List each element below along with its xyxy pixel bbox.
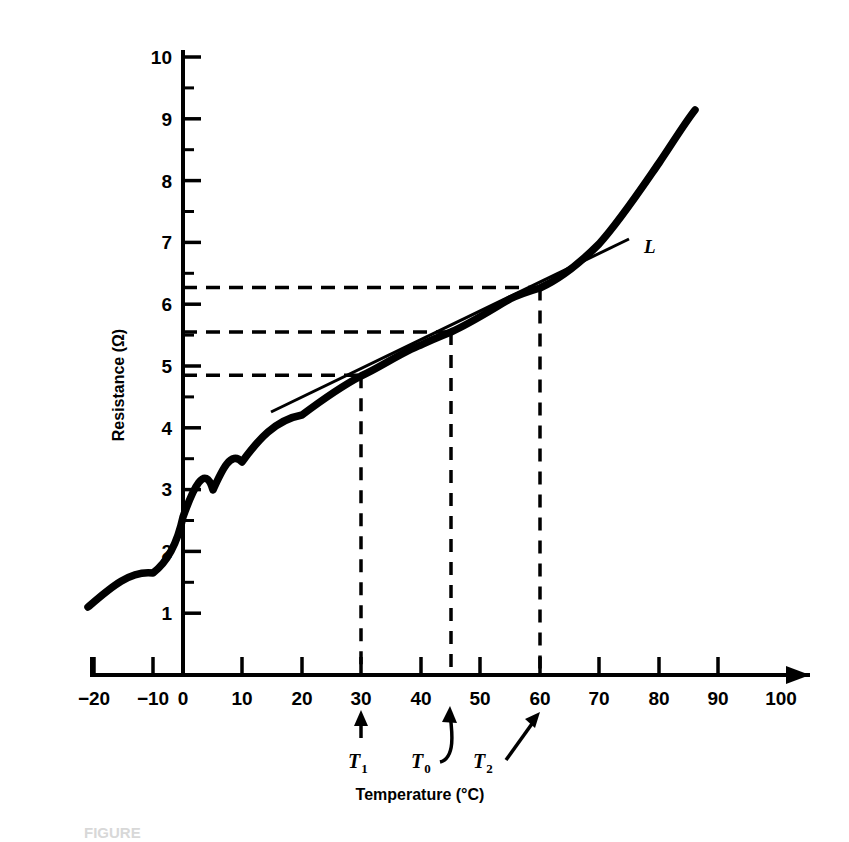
- y-tick-labels-group: 1 2 3 4 5 6 7 8 9 10: [151, 47, 173, 624]
- resistance-curve-group: [88, 110, 695, 607]
- y-tick-label-10: 10: [151, 47, 172, 68]
- figure-caption: FIGURE: [84, 824, 141, 841]
- x-tick-label-0: 0: [178, 688, 189, 709]
- marker-annotations-group: T1 T0 T2: [348, 706, 540, 776]
- t0-arrowhead-icon: [442, 706, 457, 723]
- t1-sub: 1: [361, 761, 368, 776]
- x-tick-label-50: 50: [469, 688, 490, 709]
- y-tick-label-7: 7: [161, 232, 172, 253]
- x-tick-labels-group: −20 −10 0 10 20 30 40 50 60 70 80 90 100: [78, 688, 797, 709]
- x-ticks-group: [92, 657, 718, 675]
- x-axis-title: Temperature (°C): [356, 786, 485, 803]
- t1-arrowhead-icon: [354, 710, 368, 726]
- marker-T2: T2: [473, 712, 540, 776]
- resistance-vs-temperature-chart: 1 2 3 4 5 6 7 8 9 10: [0, 0, 849, 842]
- marker-label-T1: T1: [348, 750, 368, 776]
- figure-container: 1 2 3 4 5 6 7 8 9 10: [0, 0, 849, 842]
- marker-T1: T1: [348, 710, 368, 776]
- x-tick-label-10: 10: [231, 688, 252, 709]
- t2-arrowhead-icon: [525, 712, 540, 728]
- t2-base: T: [473, 750, 486, 772]
- t1-base: T: [348, 750, 361, 772]
- x-tick-label-40: 40: [410, 688, 431, 709]
- tangent-line-label-L: L: [643, 236, 656, 257]
- t2-sub: 2: [486, 761, 493, 776]
- x-tick-label--10: −10: [137, 688, 169, 709]
- marker-label-T2: T2: [473, 750, 493, 776]
- t0-base: T: [411, 750, 424, 772]
- y-tick-label-8: 8: [161, 171, 172, 192]
- t2-arrow-shaft: [506, 721, 534, 760]
- y-tick-label-4: 4: [161, 418, 172, 439]
- marker-T0: T0: [411, 706, 457, 776]
- x-tick-label-60: 60: [529, 688, 550, 709]
- x-tick-label-70: 70: [588, 688, 609, 709]
- y-axis-title: Resistance (Ω): [110, 329, 127, 441]
- x-tick-label--20: −20: [78, 688, 110, 709]
- reference-lines-group: [183, 288, 540, 676]
- t0-sub: 0: [424, 761, 431, 776]
- x-tick-label-100: 100: [765, 688, 797, 709]
- resistance-curve: [88, 110, 695, 607]
- x-tick-label-20: 20: [291, 688, 312, 709]
- marker-label-T0: T0: [411, 750, 431, 776]
- y-tick-label-1: 1: [161, 603, 172, 624]
- y-tick-label-9: 9: [161, 109, 172, 130]
- y-tick-label-6: 6: [161, 294, 172, 315]
- x-tick-label-80: 80: [648, 688, 669, 709]
- x-tick-label-90: 90: [707, 688, 728, 709]
- y-tick-label-3: 3: [161, 479, 172, 500]
- y-tick-label-5: 5: [161, 356, 172, 377]
- y-ticks-group: [183, 57, 201, 613]
- x-tick-label-30: 30: [350, 688, 371, 709]
- x-axis-arrowhead: [786, 666, 810, 684]
